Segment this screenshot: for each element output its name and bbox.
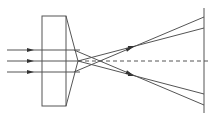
arrow-icon	[27, 48, 34, 52]
refracted-ray	[78, 28, 204, 61]
arrow-icon	[27, 70, 34, 74]
incident-rays	[7, 48, 80, 74]
refracted-ray	[74, 17, 204, 72]
optics-diagram	[0, 0, 215, 123]
refracted-ray	[78, 61, 204, 94]
refracted-ray	[74, 50, 204, 105]
arrow-icon	[27, 59, 34, 63]
